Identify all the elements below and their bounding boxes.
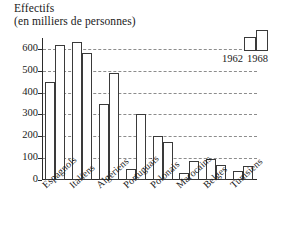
bar-group [179, 38, 199, 180]
x-axis-category-labels: EspagnolsItaliensAlgériensPortuguaisPolo… [42, 182, 305, 239]
chart-figure: Effectifs (en milliers de personnes) 010… [0, 0, 305, 239]
bar-group [99, 38, 119, 180]
bar-1962 [45, 82, 55, 180]
chart-title-block: Effectifs (en milliers de personnes) [14, 2, 136, 28]
y-axis-tick-label: 600 [22, 42, 38, 53]
y-axis-tick-label: 300 [22, 107, 38, 118]
page-title: Effectifs [14, 2, 136, 15]
legend-labels: 19621968 [222, 53, 302, 64]
legend-swatch-1962 [244, 37, 256, 51]
bar-group [126, 38, 146, 180]
bar-1968 [82, 53, 92, 180]
y-axis-tick-label: 200 [22, 129, 38, 140]
legend-label-1962: 1962 [222, 53, 243, 64]
legend-label-1968: 1968 [247, 53, 268, 64]
y-axis-tick-label: 100 [22, 151, 38, 162]
legend-swatches [244, 30, 268, 51]
bar-group [45, 38, 65, 180]
chart-subtitle: (en milliers de personnes) [14, 15, 136, 28]
y-axis-tick-label: 500 [22, 64, 38, 75]
y-axis-tick-label: 0 [33, 173, 38, 184]
chart-legend: 19621968 [222, 30, 302, 72]
legend-swatch-1968 [256, 30, 268, 51]
y-axis-tick-label: 400 [22, 86, 38, 97]
